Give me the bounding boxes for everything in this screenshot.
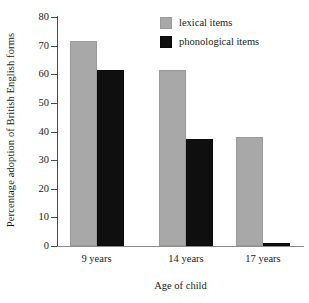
y-axis-tick-label: 70 xyxy=(3,40,49,51)
y-axis-tick-label: 30 xyxy=(3,154,49,165)
legend-swatch-lexical xyxy=(160,17,172,29)
y-axis-tick-label: 80 xyxy=(3,11,49,22)
legend-label: lexical items xyxy=(179,17,232,29)
legend-item: lexical items xyxy=(160,15,259,31)
y-axis-tick-label: 20 xyxy=(3,183,49,194)
y-axis-tick-label: 10 xyxy=(3,211,49,222)
legend-swatch-phonological xyxy=(160,36,172,48)
x-axis-tick-label: 9 years xyxy=(52,252,142,265)
bar-phonological-9-years xyxy=(97,70,124,246)
x-axis-line xyxy=(57,246,304,247)
bar-phonological-14-years xyxy=(186,139,213,246)
bar-chart: Percentage adoption of British English f… xyxy=(0,0,309,303)
x-axis-title: Age of child xyxy=(57,280,304,291)
legend-item: phonological items xyxy=(160,34,259,50)
y-axis-tick-label: 0 xyxy=(3,240,49,251)
legend-label: phonological items xyxy=(179,36,259,48)
bar-phonological-17-years xyxy=(263,243,290,246)
x-axis-tick-label: 17 years xyxy=(218,252,308,265)
bar-lexical-17-years xyxy=(236,137,263,246)
bar-lexical-14-years xyxy=(159,70,186,246)
bar-lexical-9-years xyxy=(70,41,97,246)
y-axis-tick-label: 40 xyxy=(3,126,49,137)
y-axis-tick-label: 60 xyxy=(3,68,49,79)
y-axis-tick-label: 50 xyxy=(3,97,49,108)
chart-legend: lexical itemsphonological items xyxy=(160,15,259,53)
